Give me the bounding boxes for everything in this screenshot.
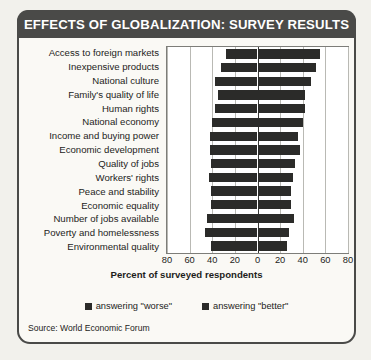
x-tick-label: 0 — [255, 255, 260, 265]
category-label: Economic equality — [81, 201, 159, 211]
category-label-row: National culture — [18, 74, 163, 88]
bar-row — [167, 239, 348, 253]
bar-better — [258, 49, 320, 58]
x-tick-label: 20 — [275, 255, 285, 265]
x-axis-tick-labels: 80604020020406080 — [166, 255, 349, 268]
x-tick-label: 60 — [320, 255, 330, 265]
category-label-row: Economic development — [18, 143, 163, 157]
category-label-row: Workers' rights — [18, 171, 163, 185]
x-tick-label: 40 — [207, 255, 217, 265]
bar-better — [258, 228, 290, 237]
bar-row — [167, 198, 348, 212]
bar-row — [167, 74, 348, 88]
x-tick-label: 80 — [162, 255, 172, 265]
bar-row — [167, 102, 348, 116]
category-label: National economy — [82, 117, 159, 127]
category-label-list: Access to foreign marketsInexpensive pro… — [18, 46, 163, 254]
bar-row — [167, 129, 348, 143]
category-label-row: Inexpensive products — [18, 60, 163, 74]
bar-better — [258, 200, 292, 209]
bar-better — [258, 118, 303, 127]
bar-row — [167, 157, 348, 171]
bar-better — [258, 214, 294, 223]
category-label: Environmental quality — [67, 242, 159, 252]
bar-worse — [212, 118, 257, 127]
category-label-row: Family's quality of life — [18, 88, 163, 102]
bar-better — [258, 145, 301, 154]
bar-row — [167, 116, 348, 130]
category-label-row: Human rights — [18, 101, 163, 115]
bar-worse — [215, 104, 258, 113]
bar-worse — [218, 90, 258, 99]
category-label-row: Income and buying power — [18, 129, 163, 143]
legend-swatch-worse-icon — [85, 303, 92, 310]
category-label-row: Economic equality — [18, 198, 163, 212]
bar-better — [258, 104, 306, 113]
category-label: Workers' rights — [96, 173, 160, 183]
bar-worse — [211, 200, 257, 209]
x-tick-label: 40 — [298, 255, 308, 265]
category-label: Income and buying power — [49, 131, 159, 141]
category-label: Access to foreign markets — [49, 48, 159, 58]
bar-worse — [210, 132, 258, 141]
bar-better — [258, 77, 311, 86]
category-label-row: Environmental quality — [18, 240, 163, 254]
chart-title-banner: EFFECTS OF GLOBALIZATION: SURVEY RESULTS — [17, 10, 356, 38]
category-label-row: Peace and stability — [18, 185, 163, 199]
bar-worse — [211, 186, 257, 195]
category-label-row: Number of jobs available — [18, 212, 163, 226]
x-axis-title: Percent of surveyed respondents — [17, 269, 356, 280]
bar-row — [167, 225, 348, 239]
category-label: Poverty and homelessness — [44, 228, 159, 238]
bar-row — [167, 184, 348, 198]
chart-page: EFFECTS OF GLOBALIZATION: SURVEY RESULTS… — [0, 0, 371, 360]
gridline — [348, 47, 349, 253]
bar-better — [258, 132, 299, 141]
legend-item-better: answering "better" — [202, 301, 288, 311]
bar-better — [258, 63, 317, 72]
bar-better — [258, 173, 293, 182]
category-label-row: Quality of jobs — [18, 157, 163, 171]
bar-worse — [210, 145, 258, 154]
category-label: Inexpensive products — [68, 62, 159, 72]
chart-legend: answering "worse" answering "better" — [17, 301, 356, 311]
bar-row — [167, 143, 348, 157]
bar-row — [167, 47, 348, 61]
legend-label-better: answering "better" — [213, 301, 288, 311]
legend-swatch-better-icon — [202, 303, 209, 310]
category-label: Quality of jobs — [98, 159, 159, 169]
x-tick-label: 80 — [343, 255, 353, 265]
source-note: Source: World Economic Forum — [28, 323, 150, 333]
category-label-row: National economy — [18, 115, 163, 129]
bar-worse — [211, 241, 257, 250]
category-label: Number of jobs available — [53, 214, 159, 224]
category-label: Peace and stability — [78, 187, 159, 197]
bar-worse — [209, 173, 258, 182]
category-label: Family's quality of life — [68, 90, 159, 100]
legend-item-worse: answering "worse" — [85, 301, 172, 311]
category-label: Human rights — [102, 104, 159, 114]
bar-worse — [221, 63, 257, 72]
bar-better — [258, 186, 292, 195]
category-label-row: Poverty and homelessness — [18, 226, 163, 240]
category-label: National culture — [92, 76, 159, 86]
bar-better — [258, 90, 306, 99]
bar-better — [258, 159, 295, 168]
bar-worse — [205, 228, 257, 237]
category-label: Economic development — [59, 145, 159, 155]
legend-label-worse: answering "worse" — [96, 301, 172, 311]
bar-row — [167, 61, 348, 75]
bar-worse — [211, 159, 257, 168]
x-tick-label: 20 — [230, 255, 240, 265]
bars-layer — [167, 47, 348, 253]
category-label-row: Access to foreign markets — [18, 46, 163, 60]
x-tick-label: 60 — [184, 255, 194, 265]
bar-row — [167, 212, 348, 226]
bar-worse — [226, 49, 258, 58]
page-title: EFFECTS OF GLOBALIZATION: SURVEY RESULTS — [24, 17, 349, 32]
bar-row — [167, 170, 348, 184]
bar-better — [258, 241, 287, 250]
bar-row — [167, 88, 348, 102]
bar-worse — [207, 214, 258, 223]
bar-worse — [215, 77, 258, 86]
